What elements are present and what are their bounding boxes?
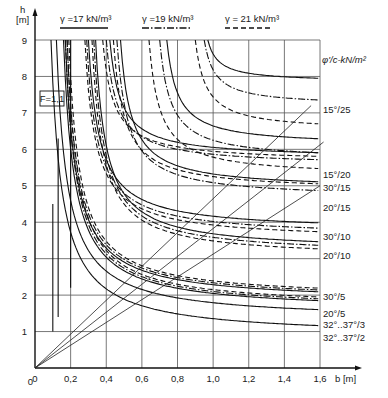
x-tick-label: 1,6	[313, 373, 326, 384]
curve-group-label: 15°/25	[323, 104, 351, 115]
y-tick-label: 4	[22, 217, 27, 228]
x-tick-label: 0,2	[64, 373, 77, 384]
y-tick-label: 1	[22, 326, 27, 337]
legend-label: γ =17 kN/m³	[60, 13, 111, 24]
x-tick-label: 0,6	[135, 373, 148, 384]
chart-svg: 00,20,40,60,81,01,21,41,61234567890b [m]…	[0, 0, 388, 398]
curve-dashed	[195, 40, 318, 124]
y-tick-label: 3	[22, 253, 27, 264]
curve-group-label: 30°/10	[323, 231, 351, 242]
y-tick-label: 9	[22, 35, 27, 46]
x-tick-label: 0	[32, 373, 37, 384]
curve-dashdot	[106, 40, 318, 160]
curve-solid	[208, 40, 318, 78]
curve-dashdot	[117, 40, 318, 191]
y-tick-label: 2	[22, 290, 27, 301]
curve-group-label: 20°/10	[323, 250, 351, 261]
y-tick-label: 5	[22, 180, 27, 191]
y-axis-arrow-icon	[33, 8, 38, 16]
x-tick-label: 1,2	[242, 373, 255, 384]
curve-solid	[96, 40, 319, 242]
x-tick-label: 0,4	[100, 373, 113, 384]
curve-solid	[64, 40, 319, 301]
curve-group-label: 30°/5	[323, 291, 345, 302]
y-tick-label: 6	[22, 144, 27, 155]
x-axis-arrow-icon	[355, 366, 362, 371]
x-tick-label: 0,8	[171, 373, 184, 384]
x-axis-label: b [m]	[335, 373, 356, 384]
y-tick-label: 8	[22, 71, 27, 82]
curve-group-label: 15°/20	[323, 169, 351, 180]
legend-label: γ =19 kN/m³	[142, 13, 193, 24]
chart-container: 00,20,40,60,81,01,21,41,61234567890b [m]…	[0, 0, 388, 398]
x-tick-label: 1,4	[278, 373, 291, 384]
curve-solid	[167, 40, 318, 139]
curve-group-label: 20°/5	[323, 308, 345, 319]
curve-dashdot	[204, 40, 318, 100]
x-tick-label: 1,0	[207, 373, 220, 384]
curve-dashed	[113, 40, 318, 184]
curve-dashdot	[160, 40, 319, 153]
curve-group-label: 32°..37°/2	[323, 332, 365, 343]
x-origin-label: 0	[28, 376, 33, 387]
curve-solid	[56, 40, 318, 310]
legend-label: γ = 21 kN/m³	[225, 13, 279, 24]
curve-group-label: 20°/15	[323, 202, 351, 213]
y-axis-unit: [m]	[16, 14, 29, 25]
y-tick-label: 7	[22, 107, 27, 118]
factor-box-label: F=1,1	[40, 93, 65, 104]
curve-group-label: 30°/15	[323, 182, 351, 193]
curve-group-label: 32°..37°/3	[323, 319, 365, 330]
right-header-label: φ'/c-kN/m²	[322, 54, 367, 65]
